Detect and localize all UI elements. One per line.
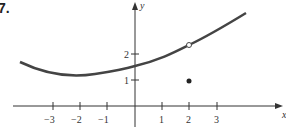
svg-text:−1: −1 (98, 114, 109, 125)
function-curve (20, 13, 246, 76)
svg-text:2: 2 (186, 114, 191, 125)
svg-text:1: 1 (159, 114, 164, 125)
y-axis-label: y (139, 0, 145, 11)
svg-text:3: 3 (214, 114, 219, 125)
open-circle-point (187, 43, 192, 48)
svg-text:2: 2 (124, 49, 129, 60)
filled-dot-point (187, 79, 192, 84)
x-axis-label: x (281, 109, 286, 120)
y-axis-arrow-icon (132, 2, 138, 10)
svg-text:−2: −2 (71, 114, 82, 125)
function-graph: x y −3 −2 −1 1 2 3 1 2 (0, 0, 286, 127)
svg-text:−3: −3 (44, 114, 55, 125)
svg-text:1: 1 (124, 75, 129, 86)
